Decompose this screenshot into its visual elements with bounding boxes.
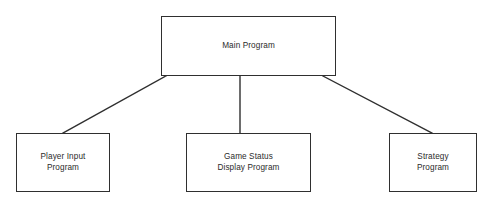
node-strategy-program: Strategy Program: [389, 133, 477, 192]
program-structure-diagram: Main Program Player Input Program Game S…: [0, 0, 495, 209]
node-player-input-program: Player Input Program: [16, 133, 110, 192]
node-strategy-program-label: Strategy Program: [413, 152, 453, 173]
node-main-program-label: Main Program: [218, 41, 279, 52]
node-game-status-display-program: Game Status Display Program: [186, 133, 311, 192]
node-game-status-display-program-label: Game Status Display Program: [213, 152, 283, 173]
node-player-input-program-label: Player Input Program: [37, 152, 90, 173]
edge-main-to-strategy: [323, 76, 432, 133]
node-main-program: Main Program: [161, 16, 336, 76]
edge-main-to-player-input: [63, 76, 166, 133]
